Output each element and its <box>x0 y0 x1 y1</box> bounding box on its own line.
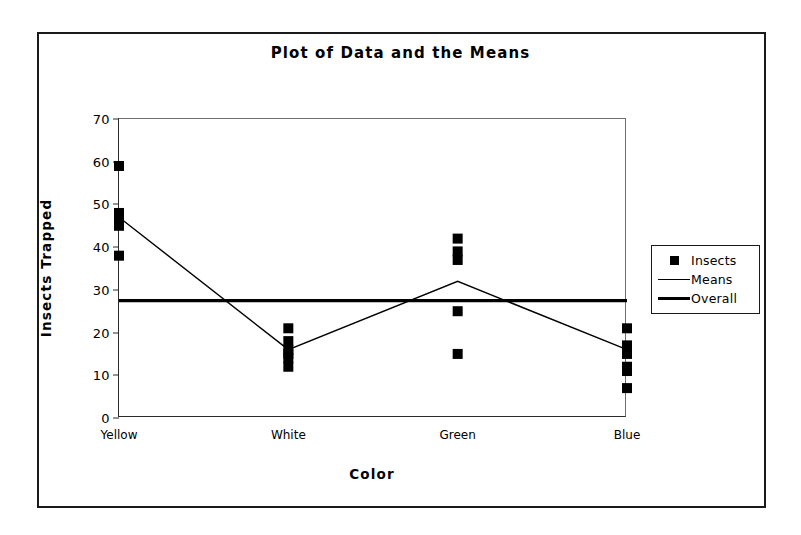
y-tick-label: 60 <box>93 154 110 169</box>
chart-title: Plot of Data and the Means <box>0 44 801 62</box>
x-axis-title: Color <box>349 466 395 482</box>
square-marker-icon <box>657 256 691 265</box>
data-point-marker <box>114 221 124 231</box>
legend-item-insects: Insects <box>657 251 753 270</box>
data-point-marker <box>283 353 293 363</box>
y-tick-label: 30 <box>93 282 110 297</box>
x-tick-label-yellow: Yellow <box>101 428 138 442</box>
data-point-marker <box>453 255 463 265</box>
y-tick-label: 70 <box>93 112 110 127</box>
y-tick-label: 40 <box>93 240 110 255</box>
data-point-marker <box>622 323 632 333</box>
data-point-marker <box>622 349 632 359</box>
x-tick-label-blue: Blue <box>614 428 641 442</box>
legend-item-overall: Overall <box>657 289 753 308</box>
plot-area: 010203040506070 YellowWhiteGreenBlue <box>118 118 626 417</box>
chart-legend: Insects Means Overall <box>651 245 760 314</box>
y-tick-label: 0 <box>101 411 110 426</box>
data-point-marker <box>453 306 463 316</box>
y-tick-label: 10 <box>93 368 110 383</box>
data-point-marker <box>283 362 293 372</box>
data-point-marker <box>453 246 463 256</box>
data-point-marker <box>453 234 463 244</box>
data-point-marker <box>283 336 293 346</box>
legend-label-means: Means <box>691 272 733 287</box>
data-point-marker <box>622 383 632 393</box>
thick-line-icon <box>657 297 691 300</box>
data-point-marker <box>622 366 632 376</box>
means-line <box>119 217 627 349</box>
x-tick-label-green: Green <box>439 428 475 442</box>
data-point-marker <box>283 323 293 333</box>
legend-label-insects: Insects <box>691 253 737 268</box>
y-tick-label: 20 <box>93 325 110 340</box>
legend-label-overall: Overall <box>691 291 737 306</box>
y-axis-title: Insects Trapped <box>38 199 54 338</box>
legend-item-means: Means <box>657 270 753 289</box>
x-tick-label-white: White <box>271 428 306 442</box>
data-point-marker <box>114 161 124 171</box>
data-point-marker <box>114 251 124 261</box>
data-point-marker <box>453 349 463 359</box>
plot-canvas <box>119 119 627 418</box>
thin-line-icon <box>657 279 691 280</box>
y-tick-label: 50 <box>93 197 110 212</box>
